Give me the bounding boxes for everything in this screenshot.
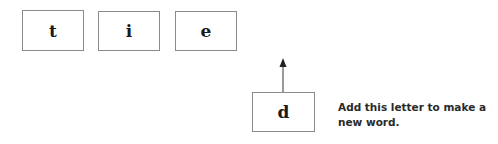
- tile-letter: d: [278, 102, 290, 122]
- instruction-caption: Add this letter to make a new word.: [338, 100, 498, 130]
- letter-tile-e: e: [175, 11, 237, 51]
- tile-letter: t: [49, 21, 57, 41]
- tile-letter: e: [201, 21, 212, 41]
- tile-letter: i: [126, 21, 132, 41]
- added-letter-tile-d: d: [252, 92, 315, 132]
- letter-tile-t: t: [22, 10, 84, 51]
- up-arrow-icon: [277, 56, 289, 94]
- letter-tile-i: i: [98, 11, 160, 51]
